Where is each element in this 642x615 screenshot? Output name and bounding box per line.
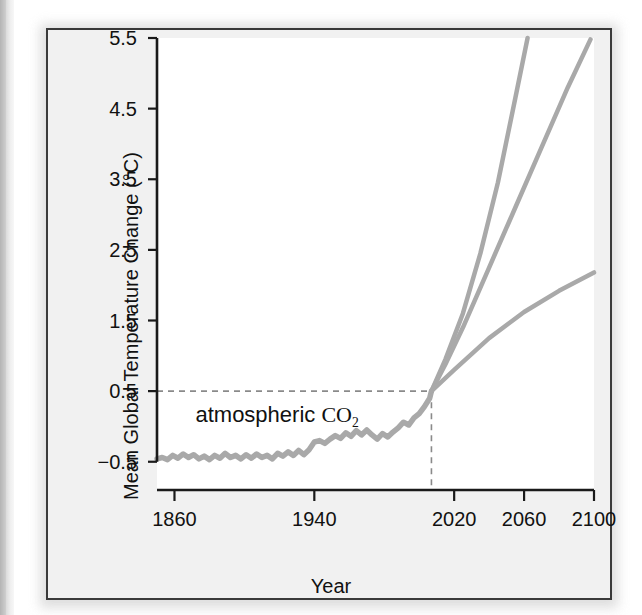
y-axis-title: Mean Global Temperature Change (°C) (120, 152, 143, 500)
x-tick-label-2: 2020 (432, 508, 477, 531)
figure-frame: −0.50.51.52.53.54.55.5 18601940202020602… (46, 28, 612, 600)
page-gutter-edge (0, 0, 6, 615)
atmospheric-co2-label: atmospheric CO2 (195, 402, 358, 431)
annot-prefix: atmospheric (195, 402, 321, 427)
x-tick-label-4: 2100 (572, 508, 617, 531)
x-tick-label-1: 1940 (292, 508, 337, 531)
annot-formula: CO2 (321, 402, 358, 427)
x-tick-label-0: 1860 (152, 508, 197, 531)
x-axis-title: Year (48, 575, 614, 598)
y-tick-label-6: 5.5 (109, 27, 137, 50)
figure-inner: −0.50.51.52.53.54.55.5 18601940202020602… (48, 30, 610, 598)
y-tick-label-5: 4.5 (109, 97, 137, 120)
x-tick-label-3: 2060 (502, 508, 547, 531)
